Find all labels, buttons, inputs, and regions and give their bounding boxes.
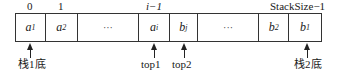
top1-label: top1 <box>141 58 161 71</box>
stack2-bottom-label: 栈2底 <box>294 58 322 71</box>
array-cell-b1: b1 <box>289 14 321 41</box>
top2-label: top2 <box>172 58 192 71</box>
array-cell-a1: a1 <box>16 14 46 41</box>
stack-array: a1 a2 ··· ai bj ··· b2 b1 <box>15 13 322 42</box>
index-label-0: 0 <box>27 0 33 12</box>
array-cell-a2: a2 <box>46 14 78 41</box>
index-label-stacksize-minus-1: StackSize−1 <box>270 0 325 12</box>
stack1-bottom-label: 栈1底 <box>18 58 46 71</box>
array-cell-ai: ai <box>139 14 170 41</box>
index-label-i-minus-1: i−1 <box>146 0 162 12</box>
index-label-1: 1 <box>58 0 64 12</box>
array-cell-ellipsis-right: ··· <box>198 14 260 41</box>
array-cell-ellipsis-left: ··· <box>78 14 140 41</box>
array-cell-b2: b2 <box>259 14 289 41</box>
array-cell-bj: bj <box>170 14 198 41</box>
